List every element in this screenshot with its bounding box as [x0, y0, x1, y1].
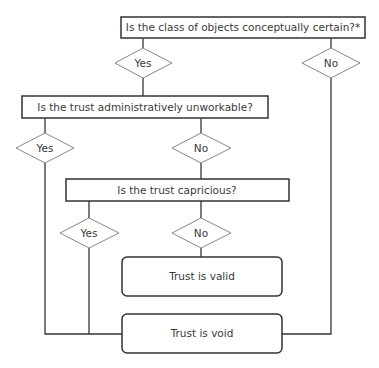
svg-text:Trust is void: Trust is void	[170, 327, 234, 339]
svg-text:No: No	[194, 227, 208, 239]
diamond-q3-yes: Yes	[60, 218, 119, 248]
svg-text:Yes: Yes	[36, 142, 54, 154]
flowchart: Is the class of objects conceptually cer…	[0, 0, 379, 368]
svg-text:Yes: Yes	[134, 57, 152, 69]
question-box-class-certain: Is the class of objects conceptually cer…	[121, 17, 365, 38]
outcome-box-valid: Trust is valid	[122, 257, 282, 296]
diamond-q3-no: No	[172, 218, 231, 248]
question-text: Is the trust capricious?	[117, 184, 236, 196]
outcome-box-void: Trust is void	[122, 314, 282, 353]
diamond-q1-no: No	[302, 48, 360, 78]
svg-text:Trust is valid: Trust is valid	[168, 270, 235, 282]
svg-text:No: No	[324, 57, 338, 69]
svg-text:No: No	[194, 142, 208, 154]
question-box-administratively-unworkable: Is the trust administratively unworkable…	[22, 96, 268, 118]
diamond-q1-yes: Yes	[115, 48, 172, 78]
question-text: Is the trust administratively unworkable…	[37, 101, 252, 113]
diamond-q2-no: No	[172, 133, 231, 163]
diamond-q2-yes: Yes	[16, 133, 74, 163]
svg-text:Yes: Yes	[80, 227, 98, 239]
question-text: Is the class of objects conceptually cer…	[126, 21, 360, 33]
question-box-capricious: Is the trust capricious?	[66, 179, 289, 201]
